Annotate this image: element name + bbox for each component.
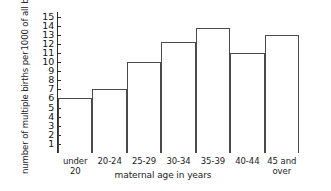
- x-axis-tick-label-line: 35-39: [196, 156, 230, 166]
- x-axis-title: maternal age in years: [58, 170, 268, 180]
- y-axis-tick-label: 4: [48, 112, 54, 121]
- x-axis-tick-label-line: over: [265, 166, 299, 176]
- y-axis-tick-label: 12: [42, 39, 54, 48]
- y-axis-tick-label: 15: [42, 12, 54, 21]
- chart-figure: number of multiple births per 1000 of al…: [0, 0, 331, 191]
- y-axis-tick-label: 3: [48, 121, 54, 130]
- bar: [196, 28, 230, 153]
- y-axis-tick-label: 6: [48, 93, 54, 102]
- bar: [161, 42, 195, 153]
- x-axis-tick-label-line: 40-44: [230, 156, 264, 166]
- bar: [265, 35, 299, 153]
- x-axis-tick-label-line: 25-29: [127, 156, 161, 166]
- bar: [127, 62, 161, 153]
- x-axis-tick-label-line: 30-34: [161, 156, 195, 166]
- y-axis-tick-label: 8: [48, 75, 54, 84]
- bar: [230, 53, 264, 153]
- y-axis-tick-label: 13: [42, 30, 54, 39]
- plot-area: [58, 12, 299, 153]
- x-axis-tick-label: 30-34: [161, 156, 195, 166]
- x-axis-tick-label: 35-39: [196, 156, 230, 166]
- x-axis-tick-label-line: 20-24: [92, 156, 126, 166]
- y-axis-tick-label: 1: [48, 139, 54, 148]
- y-axis-tick-label: 9: [48, 66, 54, 75]
- y-axis-tick-labels: 123456789101112131415: [34, 0, 54, 191]
- bar: [58, 98, 92, 153]
- y-axis-tick-label: 11: [42, 48, 54, 57]
- x-axis-tick-label-line: 45 and: [265, 156, 299, 166]
- x-axis-tick-label: 25-29: [127, 156, 161, 166]
- x-axis-tick-label: 40-44: [230, 156, 264, 166]
- y-axis-tick-label: 7: [48, 84, 54, 93]
- y-axis-title-line-2: 1000 of all births: [20, 0, 30, 50]
- y-axis-tick-label: 10: [42, 57, 54, 66]
- x-axis-tick-label: 45 andover: [265, 156, 299, 176]
- bar: [92, 89, 126, 153]
- y-axis-tick-label: 2: [48, 130, 54, 139]
- y-axis-tick-label: 14: [42, 21, 54, 30]
- x-axis-tick-label: 20-24: [92, 156, 126, 166]
- y-axis-tick-label: 5: [48, 103, 54, 112]
- y-axis-title-line-1: number of multiple births per: [20, 51, 30, 174]
